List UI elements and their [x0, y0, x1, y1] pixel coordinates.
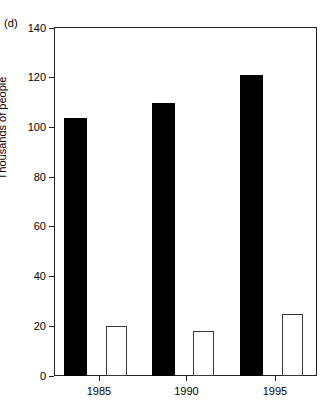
- y-tick-mark: [49, 376, 54, 377]
- y-tick-label: 120: [28, 72, 46, 83]
- x-tick-label: 1990: [174, 385, 198, 397]
- y-tick-label: 20: [34, 320, 46, 331]
- y-tick-label: 60: [34, 221, 46, 232]
- y-axis-title: Thousands of people: [0, 58, 8, 198]
- plot-area: [55, 28, 316, 376]
- bar-filled: [152, 103, 175, 376]
- bar-open: [106, 326, 127, 376]
- y-tick-mark: [49, 177, 54, 178]
- bar-filled: [64, 118, 87, 377]
- bar-filled: [240, 75, 263, 376]
- bar-open: [282, 314, 303, 376]
- bar-open: [193, 331, 214, 376]
- y-tick-label: 40: [34, 271, 46, 282]
- x-tick-mark: [186, 376, 187, 381]
- x-axis: 198519901995: [55, 376, 316, 406]
- x-tick-mark: [99, 376, 100, 381]
- y-tick-mark: [49, 28, 54, 29]
- y-tick-mark: [49, 326, 54, 327]
- y-tick-mark: [49, 77, 54, 78]
- y-tick-label: 80: [34, 171, 46, 182]
- y-tick-mark: [49, 276, 54, 277]
- y-tick-label: 140: [28, 22, 46, 33]
- x-tick-mark: [275, 376, 276, 381]
- x-tick-label: 1985: [87, 385, 111, 397]
- figure: (d) Thousands of people 0204060801001201…: [0, 0, 328, 408]
- y-tick-label: 0: [40, 370, 46, 381]
- y-tick-mark: [49, 127, 54, 128]
- y-tick-label: 100: [28, 121, 46, 132]
- y-tick-mark: [49, 226, 54, 227]
- panel-label: (d): [4, 17, 18, 29]
- x-tick-label: 1995: [263, 385, 287, 397]
